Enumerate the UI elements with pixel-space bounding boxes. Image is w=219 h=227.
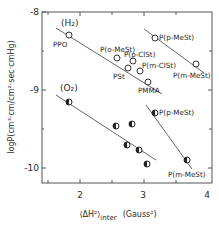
data-point-h2-pp-mest [152,35,158,41]
x-tick-label: 3 [140,190,146,200]
point-label-pmma: PMMA [138,86,160,95]
data-point-h2-ppo [66,32,72,38]
x-axis-label-main: ⟨ΔH²⟩ [79,210,100,219]
x-axis-label-sub: inter [100,214,116,222]
x-tick-label: 2 [77,190,83,200]
y-axis-label: logP(cm³·cm/cm²·sec·cmHg) [7,40,16,153]
point-label-pst: PSt [113,72,125,81]
o2-fit-lines [56,95,192,169]
data-point-o2-pp-mest [152,110,158,116]
gas-label-o2: (O₂) [60,83,78,93]
point-label-o2-pp-mest: P(p-MeSt) [159,108,194,117]
data-point-h2-pmma [145,79,151,85]
data-point-h2-po-mest [114,55,120,61]
point-label-o2-pm-mest: P(m-MeSt) [168,170,206,179]
data-point-o2-ppo [66,99,72,105]
point-label-pp-clst: P(p-ClSt) [124,50,156,59]
x-axis-label: ⟨ΔH²⟩inter(Gauss²) [79,210,156,222]
x-axis-label-unit: (Gauss²) [123,210,157,219]
point-label-h2-pp-mest: P(p-MeSt) [159,33,194,42]
data-point-h2-pm-mest [193,61,199,67]
x-tick-label: 4 [204,190,210,200]
point-label-ppo: PPO [53,40,68,49]
y-tick-label: -8 [30,7,39,17]
gas-label-h2: (H₂) [61,18,78,28]
point-label-h2-pm-mest: P(m-MeSt) [173,71,211,80]
data-point-o2-pmma [144,161,150,167]
permeability-chart: -8 -9 -10 2 3 4 logP(cm³·cm/cm²·sec·cmHg… [0,0,219,227]
data-point-o2-pp-clst [129,121,135,127]
data-point-o2-po-mest [113,123,119,129]
data-point-o2-pst [124,142,130,148]
y-tick-label: -9 [30,85,39,95]
data-point-o2-pm-clst [136,147,142,153]
data-point-h2-pst [125,65,131,71]
data-point-o2-pm-mest [184,157,190,163]
y-tick-label: -10 [24,163,39,173]
point-label-pm-clst: P(m-ClSt) [142,61,176,70]
